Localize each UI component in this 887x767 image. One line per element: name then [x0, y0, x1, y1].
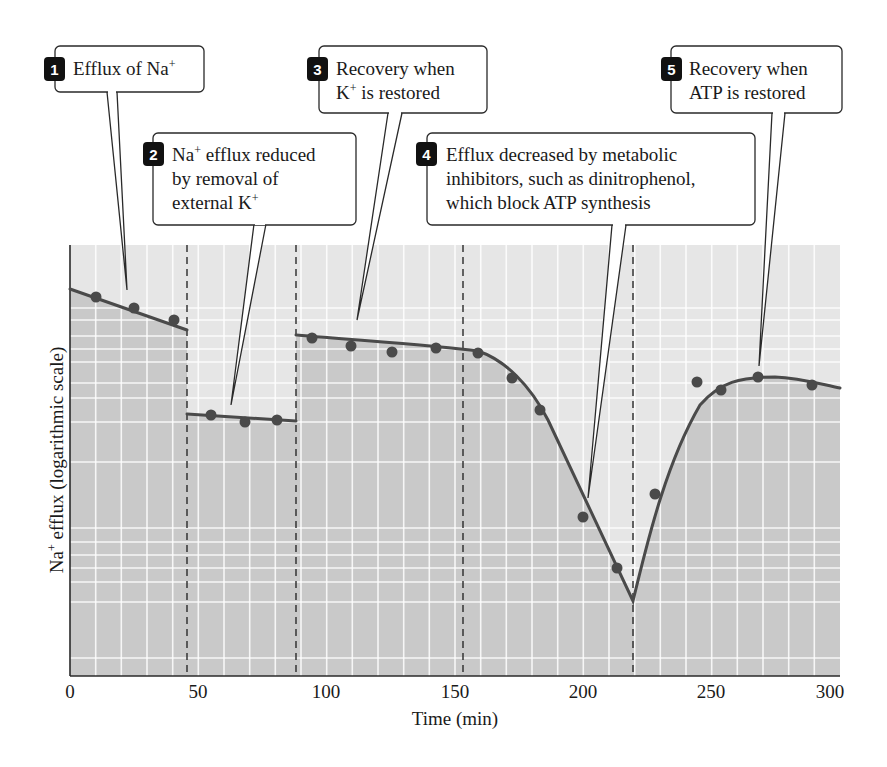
x-tick-labels: 0 50 100 150 200 250 300 — [65, 681, 844, 702]
data-point — [535, 405, 546, 416]
badge-1-icon: 1 — [44, 57, 65, 81]
svg-text:1: 1 — [50, 61, 58, 78]
data-point — [387, 347, 398, 358]
callout-4-line-2: inhibitors, such as dinitrophenol, — [446, 168, 696, 189]
svg-text:3: 3 — [313, 61, 321, 78]
callout-3-line-1: Recovery when — [336, 58, 455, 79]
callout-2-line-2: by removal of — [172, 168, 279, 189]
data-point — [129, 303, 140, 314]
x-tick-250: 250 — [697, 681, 726, 702]
x-tick-0: 0 — [65, 681, 75, 702]
data-point — [612, 563, 623, 574]
callout-2-line-1: Na+ efflux reduced — [172, 143, 316, 165]
data-point — [578, 512, 589, 523]
x-tick-50: 50 — [189, 681, 208, 702]
data-point — [169, 315, 180, 326]
callout-1: Efflux of Na+ — [73, 57, 176, 79]
badge-3-icon: 3 — [307, 57, 328, 81]
badge-2-icon: 2 — [143, 142, 164, 166]
chart: 1 2 3 4 5 Efflux of Na+ Na+ efflux reduc… — [0, 0, 887, 767]
data-point — [240, 417, 251, 428]
callout-4-line-3: which block ATP synthesis — [446, 192, 651, 213]
badge-4-icon: 4 — [416, 142, 437, 166]
data-point — [346, 341, 357, 352]
x-tick-100: 100 — [312, 681, 341, 702]
data-point — [272, 415, 283, 426]
badge-5-icon: 5 — [661, 57, 682, 81]
callout-5-line-2: ATP is restored — [689, 82, 806, 103]
data-point — [650, 489, 661, 500]
data-point — [753, 372, 764, 383]
data-point — [692, 377, 703, 388]
data-point — [507, 373, 518, 384]
data-point — [91, 292, 102, 303]
data-point — [431, 343, 442, 354]
x-tick-150: 150 — [441, 681, 470, 702]
data-point — [473, 348, 484, 359]
svg-text:4: 4 — [422, 146, 431, 163]
data-point — [716, 385, 727, 396]
x-tick-200: 200 — [569, 681, 598, 702]
callout-4-line-1: Efflux decreased by metabolic — [446, 144, 677, 165]
data-point — [807, 380, 818, 391]
x-tick-300: 300 — [816, 681, 845, 702]
svg-text:5: 5 — [667, 61, 675, 78]
callout-1-line-1: Efflux of Na+ — [73, 57, 176, 79]
data-point — [206, 410, 217, 421]
callout-5-line-1: Recovery when — [689, 58, 808, 79]
callout-2-line-3: external K+ — [172, 191, 259, 213]
svg-text:2: 2 — [149, 146, 157, 163]
y-axis-title: Na+ efflux (logarithmic scale) — [45, 347, 68, 573]
x-axis-title: Time (min) — [412, 708, 498, 730]
data-point — [307, 333, 318, 344]
